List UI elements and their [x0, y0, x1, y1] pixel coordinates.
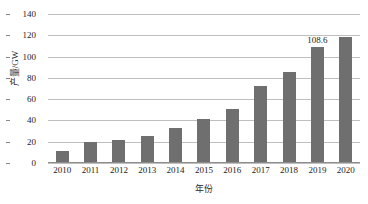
- y-tick-mark: [6, 120, 10, 121]
- bar-slot: [133, 14, 161, 163]
- bar[interactable]: 108.6: [311, 47, 324, 163]
- bar-slot: [218, 14, 246, 163]
- bars-group: 108.6: [48, 14, 360, 163]
- x-tick-label: 2014: [161, 165, 189, 175]
- y-tick-mark: [6, 163, 10, 164]
- bar[interactable]: [112, 140, 125, 163]
- bar-slot: [161, 14, 189, 163]
- y-tick-label: 80: [10, 73, 36, 83]
- x-axis-line: [48, 162, 360, 163]
- x-tick-label: 2011: [76, 165, 104, 175]
- bar[interactable]: [84, 142, 97, 163]
- y-tick-label: 60: [10, 94, 36, 104]
- bar-chart: 产量/GW 020406080100120140 108.6 201020112…: [0, 0, 368, 204]
- y-tick-label: 100: [10, 52, 36, 62]
- y-tick-label: 20: [10, 137, 36, 147]
- y-tick-label: 140: [10, 9, 36, 19]
- x-tick-label: 2018: [275, 165, 303, 175]
- y-tick-mark: [6, 35, 10, 36]
- plot-area: 020406080100120140 108.6: [48, 14, 360, 163]
- x-tick-label: 2015: [190, 165, 218, 175]
- bar-slot: [332, 14, 360, 163]
- bar-slot: [76, 14, 104, 163]
- gridline: [48, 163, 360, 164]
- bar-slot: [247, 14, 275, 163]
- x-tick-label: 2013: [133, 165, 161, 175]
- bar[interactable]: [169, 128, 182, 163]
- x-tick-label: 2010: [48, 165, 76, 175]
- x-tick-label: 2020: [332, 165, 360, 175]
- bar-slot: [275, 14, 303, 163]
- y-tick-label: 40: [10, 115, 36, 125]
- y-tick-label: 120: [10, 30, 36, 40]
- y-tick-mark: [6, 57, 10, 58]
- y-tick-mark: [6, 99, 10, 100]
- x-tick-label: 2012: [105, 165, 133, 175]
- bar-slot: [48, 14, 76, 163]
- bar[interactable]: [197, 119, 210, 163]
- bar[interactable]: [141, 136, 154, 163]
- bar[interactable]: [254, 86, 267, 163]
- bar-value-label: 108.6: [307, 35, 327, 45]
- y-tick-mark: [6, 14, 10, 15]
- x-axis-title: 年份: [48, 182, 360, 195]
- bar-slot: 108.6: [303, 14, 331, 163]
- y-tick-mark: [6, 142, 10, 143]
- x-tick-label: 2016: [218, 165, 246, 175]
- bar-slot: [190, 14, 218, 163]
- bar-slot: [105, 14, 133, 163]
- bar[interactable]: [283, 72, 296, 163]
- y-tick-label: 0: [10, 158, 36, 168]
- bar[interactable]: [339, 37, 352, 163]
- x-tick-label: 2017: [247, 165, 275, 175]
- y-tick-mark: [6, 78, 10, 79]
- bar[interactable]: [226, 109, 239, 163]
- x-tick-labels-group: 2010201120122013201420152016201720182019…: [48, 165, 360, 175]
- x-tick-label: 2019: [303, 165, 331, 175]
